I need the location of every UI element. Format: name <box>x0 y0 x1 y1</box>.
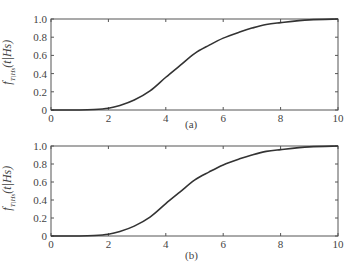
y-tick-label: 0.6 <box>33 49 47 61</box>
x-tick-label: 0 <box>48 238 54 250</box>
y-tick-label: 0.2 <box>33 212 47 224</box>
y-tick-label: 0.8 <box>33 31 47 43</box>
y-tick-label: 0.6 <box>33 176 47 188</box>
x-tick-label: 6 <box>220 238 226 250</box>
plot-area-a: 024681000.20.40.60.81.0 <box>0 0 353 134</box>
panel-caption-b: (b) <box>185 249 198 261</box>
y-tick-label: 1.0 <box>33 13 47 25</box>
panel-caption-a: (a) <box>185 118 197 130</box>
y-axis-label-b: fT|Hs(t|Hs) <box>0 166 16 211</box>
y-tick-label: 0 <box>42 230 48 242</box>
chart-panel-a: 024681000.20.40.60.81.0 fT|Hs(t|Hs) (a) <box>0 0 353 134</box>
data-series-line <box>51 146 338 236</box>
x-tick-label: 10 <box>333 112 345 124</box>
chart-panel-b: 024681000.20.40.60.81.0 fT|Hs(t|Hs) (b) <box>0 134 353 268</box>
y-tick-label: 0.4 <box>33 68 47 80</box>
y-tick-label: 0.8 <box>33 158 47 170</box>
plot-area-b: 024681000.20.40.60.81.0 <box>0 134 353 268</box>
x-tick-label: 8 <box>278 112 284 124</box>
axes-frame <box>51 19 338 110</box>
data-series-line <box>51 19 338 110</box>
axes-frame <box>51 146 338 236</box>
y-tick-label: 0.4 <box>33 194 47 206</box>
x-tick-label: 4 <box>163 238 169 250</box>
x-tick-label: 2 <box>106 238 112 250</box>
x-tick-label: 2 <box>106 112 112 124</box>
x-tick-label: 10 <box>333 238 345 250</box>
y-tick-label: 0.2 <box>33 86 47 98</box>
x-tick-label: 0 <box>48 112 54 124</box>
y-axis-label-a: fT|Hs(t|Hs) <box>0 40 16 85</box>
x-tick-label: 4 <box>163 112 169 124</box>
y-tick-label: 1.0 <box>33 140 47 152</box>
x-tick-label: 8 <box>278 238 284 250</box>
x-tick-label: 6 <box>220 112 226 124</box>
y-tick-label: 0 <box>42 104 48 116</box>
